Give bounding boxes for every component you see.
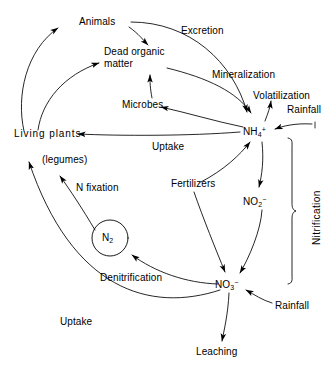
node-no2-superscript: − [262, 196, 266, 203]
node-living-plants: Living plants [14, 128, 81, 139]
process-denitrification: Denitrification [100, 272, 162, 283]
process-uptake-top: Uptake [152, 141, 184, 152]
process-excretion: Excretion [181, 25, 224, 36]
arrow-nh4-to-microbes [161, 107, 243, 127]
arrow-fertilizers-to-nh4 [201, 142, 250, 182]
node-nh4-symbol: NH [243, 126, 258, 137]
process-volatilization: Volatilization [253, 90, 310, 101]
nitrogen-cycle-diagram: Animals Dead organic matter Microbes Liv… [0, 0, 331, 378]
node-dead-organic-matter-line2: matter [104, 58, 133, 69]
process-nitrification: Nitrification [311, 190, 322, 245]
node-dead-organic-matter-line1: Dead organic [104, 46, 165, 57]
node-legumes: (legumes) [42, 154, 87, 165]
process-n-fixation: N fixation [76, 182, 119, 193]
node-no2-symbol: NO [243, 196, 258, 207]
arrow-no3-to-leaching [222, 293, 229, 341]
process-leaching: Leaching [196, 346, 237, 357]
node-n2-subscript: 2 [109, 237, 113, 244]
process-rainfall-top: Rainfall [287, 104, 321, 115]
arrow-living-plants-to-animals [21, 28, 58, 131]
node-nh4-superscript: + [262, 126, 266, 133]
arrow-fertilizers-to-no3 [194, 192, 225, 272]
diagram-lines-layer [0, 0, 331, 378]
arrow-microbes-to-dead-organic [150, 75, 152, 98]
node-no3-superscript: − [234, 279, 238, 286]
process-uptake-bottom: Uptake [60, 316, 92, 327]
process-fertilizers: Fertilizers [171, 178, 215, 189]
arrow-nh4-to-no2 [259, 142, 263, 187]
arrow-animals-to-dead-organic [129, 27, 148, 45]
process-rainfall-bottom: Rainfall [275, 300, 309, 311]
node-microbes: Microbes [122, 99, 163, 110]
process-mineralization: Mineralization [212, 69, 275, 80]
arrow-rainfall-to-nh4 [275, 124, 312, 129]
node-no3-symbol: NO [215, 279, 230, 290]
arrow-volatilization-from-nh4 [265, 101, 271, 121]
arrow-living-plants-to-dead-organic [38, 63, 99, 130]
arrow-no2-to-no3 [240, 210, 262, 273]
node-animals: Animals [79, 16, 115, 27]
arrow-rainfall-to-no3 [246, 290, 272, 303]
arrow-uptake-nh4-to-living-plants [78, 132, 240, 135]
nitrification-brace [288, 138, 296, 284]
